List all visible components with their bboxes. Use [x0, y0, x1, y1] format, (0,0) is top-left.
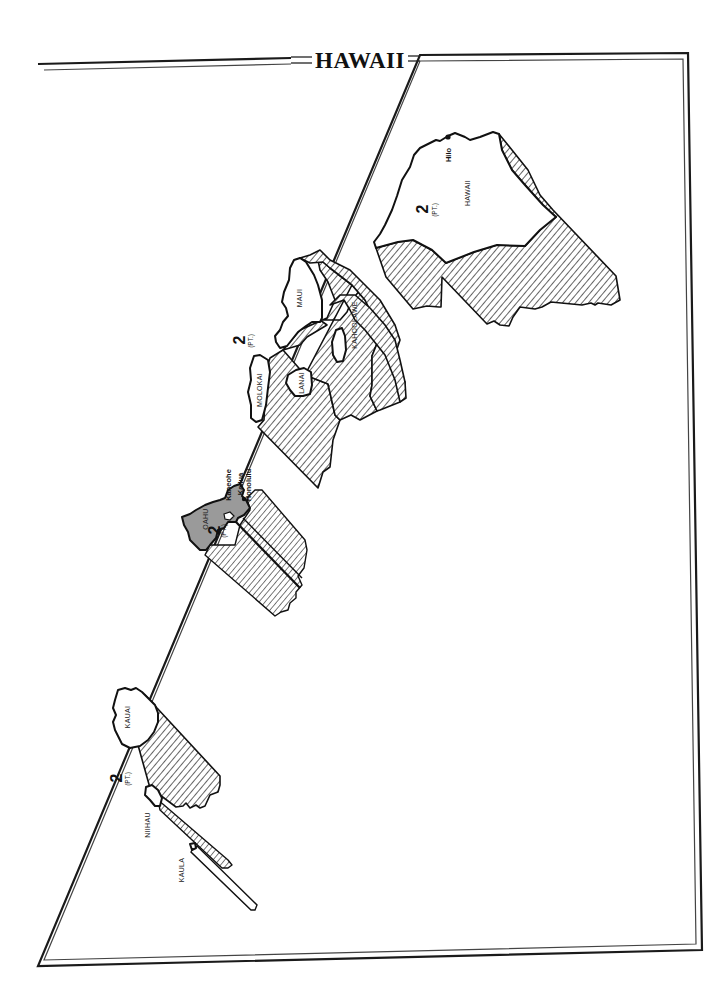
kauai-district-pt: (PT.)	[124, 772, 132, 786]
hawaii-island-label: HAWAII	[464, 180, 471, 206]
island-group-maui-county: MAUI KAHOOLAWE LANAI MOLOKAI 2 (PT.)	[231, 250, 406, 488]
map-title: HAWAII	[315, 48, 405, 73]
lanai-island-label: LANAI	[298, 372, 305, 394]
island-group-kauai: KAUAI 2 (PT.) NIIHAU KAULA	[108, 688, 257, 910]
hilo-label: Hilo	[444, 148, 453, 163]
hawaii-district-pt: (PT.)	[431, 203, 439, 217]
molokai-island-label: MOLOKAI	[256, 373, 263, 407]
island-hawaii: Hilo HAWAII 2 (PT.)	[374, 132, 620, 326]
niihau-extrusion	[158, 800, 232, 868]
island-oahu: Kaneohe Kailua Honolulu OAHU 2 (PT.)	[182, 468, 307, 616]
maui-district-pt: (PT.)	[247, 334, 255, 348]
kaula-outline	[190, 843, 196, 850]
hawaii-district-number: 2	[414, 204, 431, 213]
map-frame: HAWAII	[38, 48, 702, 966]
kaula-island-label: KAULA	[178, 858, 185, 882]
kahoolawe-island-label: KAHOOLAWE	[351, 301, 358, 349]
maui-district-number: 2	[231, 335, 248, 344]
hilo-marker	[445, 134, 450, 139]
hawaii-district-map: HAWAII Hilo HAWAII 2 (PT.) MAUI KAHOOLAW…	[0, 0, 727, 987]
frame-outer-border	[38, 53, 702, 966]
kaula-extrusion	[191, 846, 257, 910]
frame-inner-border	[44, 59, 696, 960]
kahoolawe-outline	[332, 328, 346, 362]
oahu-district-pt: (PT.)	[220, 524, 228, 538]
honolulu-label: Honolulu	[244, 468, 253, 501]
kaneohe-label: Kaneohe	[224, 469, 233, 501]
niihau-island-label: NIIHAU	[144, 812, 151, 838]
kauai-island-label: KAUAI	[124, 706, 131, 729]
kauai-district-number: 2	[108, 773, 125, 782]
maui-island-label: MAUI	[296, 289, 303, 308]
